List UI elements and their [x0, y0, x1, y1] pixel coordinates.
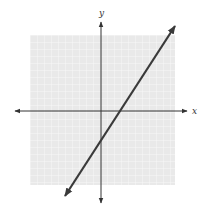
- grid-background: [30, 35, 175, 185]
- y-axis-label: y: [98, 8, 105, 18]
- x-axis-label: x: [192, 106, 197, 116]
- coordinate-plane: x y: [0, 0, 204, 212]
